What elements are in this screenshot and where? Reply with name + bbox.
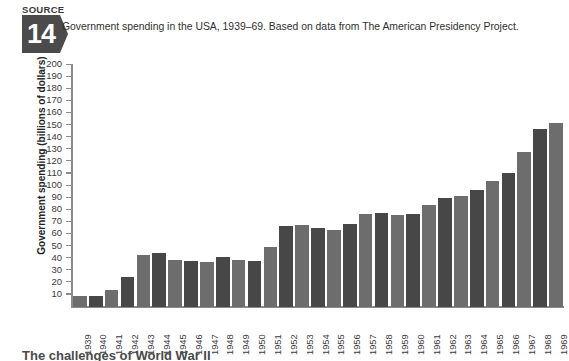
bar xyxy=(422,205,436,307)
y-axis-tick-label: 100 xyxy=(36,180,62,190)
y-axis-tick-label: 80 xyxy=(36,204,62,214)
bar xyxy=(470,190,484,307)
y-axis-tick-label: 130 xyxy=(36,144,62,154)
y-axis-tick-label: 150 xyxy=(36,120,62,130)
y-axis-tick-label: 40 xyxy=(36,253,62,263)
bar xyxy=(248,261,262,307)
bar xyxy=(375,213,389,307)
y-axis-tick-label: 170 xyxy=(36,95,62,105)
bar xyxy=(216,257,230,307)
bar xyxy=(406,214,420,307)
bar xyxy=(327,230,341,307)
bar xyxy=(438,198,452,307)
y-axis-tick-label: 60 xyxy=(36,228,62,238)
source-badge-label: SOURCE xyxy=(22,4,64,15)
y-axis-tick-label: 20 xyxy=(36,277,62,287)
bar xyxy=(454,196,468,307)
y-axis-tick-label: 50 xyxy=(36,241,62,251)
bar xyxy=(264,247,278,308)
y-axis-tick-label: 190 xyxy=(36,71,62,81)
bar xyxy=(89,296,103,307)
bar xyxy=(184,261,198,307)
chart-header: SOURCE 14 Government spending in the USA… xyxy=(0,0,567,56)
bar xyxy=(200,262,214,307)
bar xyxy=(391,215,405,307)
y-axis-tick-label: 70 xyxy=(36,216,62,226)
bar-series xyxy=(72,64,564,307)
bar xyxy=(517,152,531,307)
y-axis-tick-label: 160 xyxy=(36,107,62,117)
y-axis-tick-label: 90 xyxy=(36,192,62,202)
bar xyxy=(295,225,309,307)
bar xyxy=(343,224,357,307)
y-axis-tick-label: 200 xyxy=(36,59,62,69)
bar xyxy=(549,123,563,307)
bottom-strip: The challenges of World War II xyxy=(0,349,567,361)
bar xyxy=(533,129,547,307)
bar xyxy=(486,181,500,307)
bar xyxy=(121,277,135,307)
bar xyxy=(152,253,166,307)
bar xyxy=(279,226,293,307)
y-axis-tick-label: 120 xyxy=(36,156,62,166)
bar xyxy=(73,296,87,307)
y-axis-tick-label: 30 xyxy=(36,265,62,275)
y-axis-tick-label: 180 xyxy=(36,83,62,93)
bar xyxy=(502,173,516,307)
bottom-strip-text: The challenges of World War II xyxy=(22,349,211,361)
y-axis-tick-label: 10 xyxy=(36,289,62,299)
bar xyxy=(359,214,373,307)
bar xyxy=(311,228,325,307)
y-axis-tick-label: 110 xyxy=(36,168,62,178)
bar xyxy=(232,260,246,307)
bar xyxy=(168,260,182,307)
y-axis-tick-label: 140 xyxy=(36,132,62,142)
bar xyxy=(137,255,151,307)
chart-title: Government spending in the USA, 1939–69.… xyxy=(62,20,563,33)
bar xyxy=(105,290,119,307)
